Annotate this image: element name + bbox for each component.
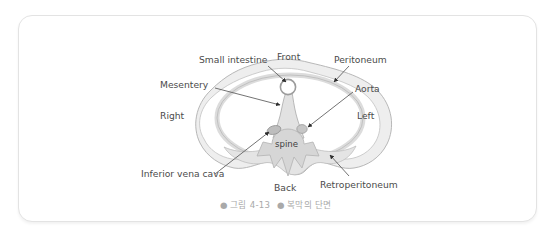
label-right: Right (160, 110, 185, 121)
label-left: Left (357, 110, 375, 121)
label-back: Back (274, 182, 297, 193)
label-inferior-vena-cava: Inferior vena cava (141, 168, 224, 179)
caption-bullet-left: ● (220, 200, 228, 210)
caption-title: 복막의 단면 (287, 200, 332, 210)
label-spine: spine (275, 139, 298, 149)
label-small-intestine: Small intestine (199, 54, 268, 65)
label-aorta: Aorta (355, 83, 380, 94)
label-retroperitoneum: Retroperitoneum (320, 179, 398, 190)
aorta-shape (297, 125, 307, 134)
figure-caption: ● 그림 4-13 ● 복막의 단면 (220, 199, 332, 210)
label-front: Front (277, 51, 301, 62)
figure-illustration: Small intestine Front Peritoneum Mesente… (19, 16, 538, 223)
label-mesentery: Mesentery (160, 79, 209, 90)
figure-card: Small intestine Front Peritoneum Mesente… (18, 15, 537, 222)
caption-number: 그림 4-13 (230, 199, 270, 210)
small-intestine-loop (280, 79, 295, 94)
caption-bullet-right: ● (277, 200, 285, 210)
label-peritoneum: Peritoneum (334, 54, 387, 65)
